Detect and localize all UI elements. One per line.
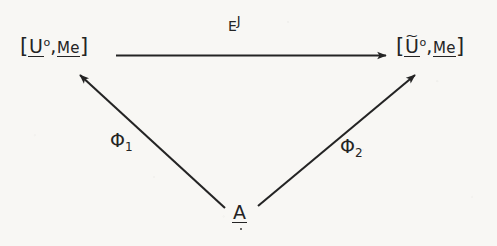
arrow-top-label-superscript: J — [237, 13, 241, 28]
node-right-object: [~Uo,Me] — [396, 36, 464, 57]
right-close-bracket: ] — [456, 34, 464, 58]
arrow-left-diagonal — [80, 75, 225, 208]
right-me-term: Me — [433, 41, 457, 57]
arrow-right-diagonal-label: Φ2 — [340, 137, 363, 159]
right-u-term: ~U — [404, 37, 419, 57]
left-close-bracket: ] — [80, 34, 88, 58]
phi1-base: Φ — [110, 129, 125, 151]
node-bottom-object: A — [232, 203, 247, 223]
tilde-accent-icon: ~ — [405, 29, 419, 42]
right-open-bracket: [ — [396, 34, 404, 58]
arrow-top-label-base: E — [228, 18, 237, 34]
commutative-diagram-figure: [Uo,Me] [~Uo,Me] A EJ Φ1 Φ2 — [0, 0, 497, 246]
left-u-base: U — [29, 35, 43, 57]
left-me-term: Me — [57, 41, 81, 57]
phi2-subscript: 2 — [355, 146, 363, 160]
phi2-base: Φ — [340, 135, 355, 157]
node-left-object: [Uo,Me] — [20, 36, 88, 57]
phi1-subscript: 1 — [125, 140, 133, 154]
arrow-left-diagonal-label: Φ1 — [110, 131, 133, 153]
left-open-bracket: [ — [20, 34, 28, 58]
bottom-a-term: A — [232, 203, 247, 223]
arrow-right-diagonal — [258, 75, 415, 206]
left-u-term: U — [28, 37, 43, 57]
ink-speck — [240, 228, 242, 230]
arrow-top-label: EJ — [228, 14, 241, 33]
